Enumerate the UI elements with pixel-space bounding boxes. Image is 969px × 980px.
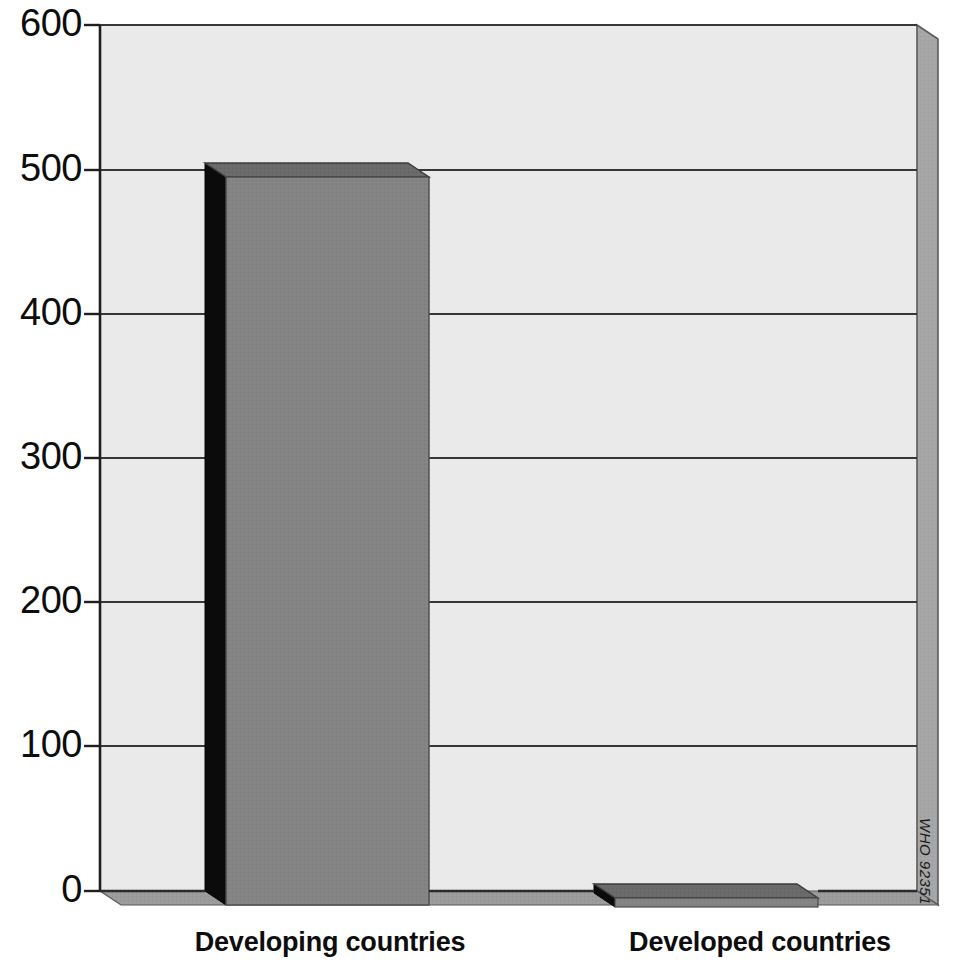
y-tick-label-500: 500 [4,149,82,187]
x-category-label-developed: Developed countries [560,927,960,958]
who-credit-text: WHO 92351 [917,818,934,928]
y-tick-label-100: 100 [4,725,82,763]
y-tick-label-0: 0 [4,870,82,908]
y-tick-label-200: 200 [4,581,82,619]
y-axis-label-group: 600 500 400 300 200 100 0 [0,0,82,980]
bar-developed-countries [594,884,818,907]
bar-developing-countries [205,163,429,905]
chart-canvas [0,0,969,980]
bar-chart-figure: 600 500 400 300 200 100 0 Developing cou… [0,0,969,980]
x-category-label-developing: Developing countries [130,927,530,958]
y-tick-label-600: 600 [4,4,82,42]
y-tick-label-300: 300 [4,437,82,475]
y-axis-ticks [84,25,100,891]
plot-right-wall [917,25,938,905]
y-tick-label-400: 400 [4,293,82,331]
